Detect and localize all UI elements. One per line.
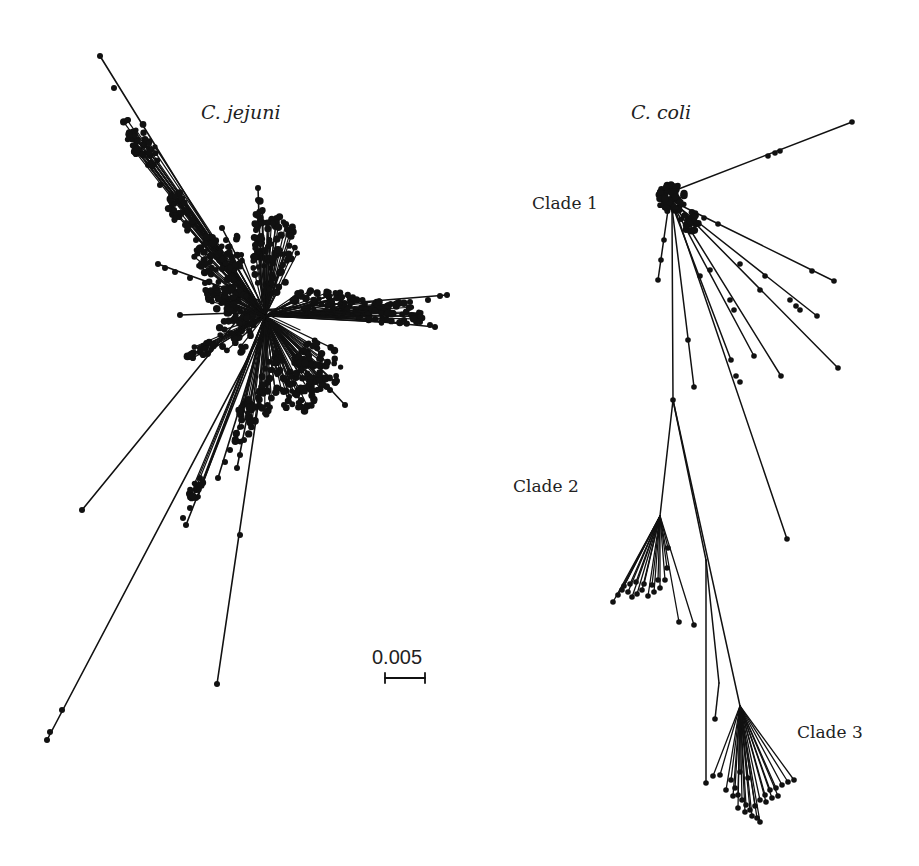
tree-node <box>793 303 799 309</box>
tree-node <box>775 793 781 799</box>
tree-node <box>661 196 668 203</box>
tree-node <box>152 144 157 149</box>
tree-node <box>634 591 640 597</box>
tree-node <box>293 391 300 398</box>
tree-node <box>250 258 255 263</box>
tree-node <box>255 185 261 191</box>
tree-node <box>133 146 140 153</box>
tree-node <box>219 225 225 231</box>
tree-node <box>215 296 222 303</box>
tree-node <box>79 507 85 513</box>
tree-node <box>44 737 50 743</box>
tree-node <box>254 248 261 255</box>
tree-node <box>777 148 783 154</box>
tree-node <box>317 372 323 378</box>
tree-node <box>323 288 330 295</box>
tree-node <box>661 237 667 243</box>
tree-node <box>425 297 431 303</box>
tree-node <box>257 214 264 221</box>
tree-node <box>47 729 53 735</box>
tree-node <box>285 398 292 405</box>
tree-node <box>299 404 305 410</box>
tree-node <box>680 192 688 200</box>
tree-node <box>289 388 294 393</box>
tree-node <box>238 417 245 424</box>
tree-node <box>267 287 272 292</box>
tree-node <box>124 117 130 123</box>
tree-node <box>264 388 271 395</box>
tree-node <box>288 233 295 240</box>
tree-node <box>663 184 669 190</box>
tree-node <box>187 505 193 511</box>
tree-node <box>737 261 743 267</box>
tree-node <box>289 224 296 231</box>
tree-node <box>757 287 763 293</box>
tree-node <box>715 221 721 227</box>
tree-node <box>784 536 790 542</box>
tree-node <box>205 293 210 298</box>
tree-node <box>275 284 282 291</box>
tree-node <box>140 130 146 136</box>
tree-node <box>791 777 797 783</box>
tree-node <box>298 289 304 295</box>
species-label-c-jejuni: C. jejuni <box>201 101 281 123</box>
tree-node <box>331 347 339 355</box>
tree-node <box>629 594 635 600</box>
tree-node <box>268 241 274 247</box>
tree-node <box>772 150 778 156</box>
tree-node <box>223 261 229 267</box>
tree-node <box>292 245 298 251</box>
tree-node <box>645 593 651 599</box>
tree-node <box>625 589 631 595</box>
tree-node <box>785 779 791 785</box>
tree-node <box>205 268 211 274</box>
clade-label-3: Clade 3 <box>797 722 863 742</box>
tree-node <box>665 545 671 551</box>
tree-node <box>245 430 252 437</box>
tree-node <box>342 402 348 408</box>
tree-node <box>288 374 294 380</box>
tree-node <box>809 268 815 274</box>
tree-node <box>222 459 228 465</box>
tree-node <box>275 224 282 231</box>
tree-node <box>222 288 230 296</box>
tree-node <box>274 369 280 375</box>
tree-node <box>227 447 233 453</box>
tree-node <box>183 522 189 528</box>
tree-node <box>187 352 194 359</box>
tree-node <box>651 589 657 595</box>
tree-node <box>742 809 748 815</box>
tree-node <box>221 326 227 332</box>
tree-node <box>182 199 188 205</box>
tree-node <box>202 287 208 293</box>
tree-node <box>213 285 219 291</box>
tree-node <box>787 297 793 303</box>
tree-node <box>797 307 803 313</box>
tree-node <box>234 234 240 240</box>
tree-node <box>712 716 718 722</box>
tree-node <box>360 297 366 303</box>
tree-node <box>290 297 296 303</box>
tree-node <box>223 237 229 243</box>
tree-node <box>196 487 201 492</box>
tree-node <box>703 780 709 786</box>
tree-node <box>333 378 340 385</box>
tree-node <box>146 149 153 156</box>
tree-node <box>315 387 321 393</box>
tree-node <box>757 797 763 803</box>
tree-node <box>226 243 232 249</box>
tree-node <box>417 314 422 319</box>
tree-node <box>225 274 232 281</box>
tree-node <box>691 384 697 390</box>
tree-node <box>255 280 261 286</box>
tree-node <box>196 245 203 252</box>
tree-node <box>313 361 320 368</box>
tree-node <box>749 813 755 819</box>
tree-node <box>658 189 664 195</box>
tree-node <box>244 293 249 298</box>
tree-node <box>306 291 311 296</box>
tree-node <box>728 777 734 783</box>
tree-node <box>209 239 216 246</box>
tree-node <box>203 234 210 241</box>
tree-node <box>140 121 147 128</box>
